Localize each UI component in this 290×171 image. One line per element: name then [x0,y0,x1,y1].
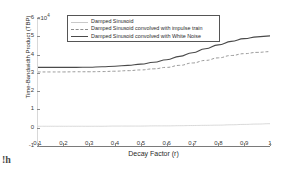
legend-item-impulse-train: Damped Sinusoid convolved with impulse t… [71,25,216,32]
y-tick-mark [37,91,40,92]
y-tick-mark [37,128,40,129]
x-tick-mark [270,143,271,146]
legend-label: Damped Sinusoid [91,18,134,25]
x-tick-mark [89,143,90,146]
legend-item-white-noise: Damped Sinusoid convolved with White Noi… [71,33,216,40]
chart-legend: Damped Sinusoid Damped Sinusoid convolve… [67,15,220,42]
page-artifact-text: !h [2,154,11,165]
y-tick-mark [37,55,40,56]
x-axis-line [37,146,270,147]
y-tick-mark [37,18,40,19]
legend-item-damped-sinusoid: Damped Sinusoid [71,18,216,25]
series-line [38,124,271,127]
y-tick-label: 4 [20,51,34,57]
chart-figure: Time-Bandwidth Product (TBP) ×104 -10123… [0,0,290,171]
y-tick-label: 3 [20,69,34,75]
x-tick-mark [218,143,219,146]
x-tick-mark [244,143,245,146]
y-tick-mark [37,73,40,74]
y-tick-label: 5 [20,32,34,38]
x-tick-mark [115,143,116,146]
x-axis-title: Decay Factor (r) [36,150,271,157]
y-tick-mark [37,146,40,147]
x-tick-mark [63,143,64,146]
x-tick-mark [167,143,168,146]
y-tick-label: 0 [20,124,34,130]
x-tick-mark [141,143,142,146]
legend-label: Damped Sinusoid convolved with impulse t… [91,25,202,32]
y-tick-label: 6 [20,14,34,20]
x-tick-mark [38,143,39,146]
y-tick-label: 1 [20,105,34,111]
x-tick-mark [193,143,194,146]
legend-label: Damped Sinusoid convolved with White Noi… [91,33,201,40]
y-tick-label: 2 [20,87,34,93]
y-tick-mark [37,36,40,37]
y-tick-mark [37,109,40,110]
